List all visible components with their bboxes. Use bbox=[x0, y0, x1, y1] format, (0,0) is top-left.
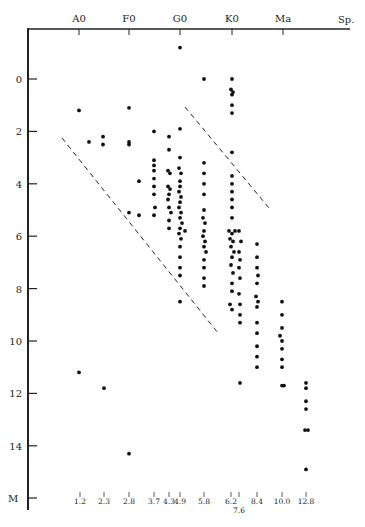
star-point bbox=[152, 164, 156, 168]
star-point bbox=[239, 240, 243, 244]
star-point bbox=[255, 281, 259, 285]
star-point bbox=[238, 276, 242, 280]
star-point bbox=[137, 213, 141, 217]
bottom-tick-label: 2.3 bbox=[98, 497, 110, 506]
star-point bbox=[179, 237, 183, 241]
bottom-axis-ticks: 1.22.32.83.74.34.95.86.27.68.410.012.8 bbox=[74, 492, 315, 515]
star-point bbox=[280, 347, 284, 351]
star-point bbox=[255, 321, 259, 325]
star-point bbox=[255, 344, 259, 348]
star-point bbox=[231, 240, 235, 244]
bottom-tick-label: 5.8 bbox=[198, 497, 210, 506]
star-point bbox=[178, 156, 182, 160]
star-point bbox=[237, 292, 241, 296]
star-point bbox=[238, 258, 242, 262]
upper-envelope-line bbox=[185, 107, 269, 208]
star-point bbox=[230, 182, 234, 186]
star-point bbox=[230, 93, 234, 97]
star-point bbox=[178, 226, 182, 230]
left-tick-label: 14 bbox=[9, 441, 22, 452]
star-point bbox=[101, 135, 105, 139]
star-point bbox=[167, 205, 171, 209]
top-tick-label: K0 bbox=[225, 13, 239, 24]
star-point bbox=[178, 300, 182, 304]
star-point bbox=[168, 187, 172, 191]
hr-diagram-chart: A0F0G0K0Ma 02468101214 1.22.32.83.74.34.… bbox=[0, 0, 365, 527]
left-tick-label: 0 bbox=[16, 74, 22, 85]
star-point bbox=[127, 106, 131, 110]
star-point bbox=[179, 171, 183, 175]
star-point bbox=[202, 161, 206, 165]
star-point bbox=[304, 386, 308, 390]
star-point bbox=[153, 205, 157, 209]
bottom-tick-label: 12.8 bbox=[298, 497, 315, 506]
star-point bbox=[178, 127, 182, 131]
star-point bbox=[152, 130, 156, 134]
bottom-tick-label: 1.2 bbox=[74, 497, 86, 506]
star-point bbox=[228, 302, 232, 306]
star-point bbox=[152, 177, 156, 181]
star-point bbox=[202, 208, 206, 212]
star-point bbox=[167, 226, 171, 230]
star-point bbox=[168, 171, 172, 175]
star-point bbox=[230, 308, 234, 312]
star-point bbox=[238, 313, 242, 317]
star-point bbox=[167, 219, 171, 223]
star-point bbox=[304, 399, 308, 403]
star-point bbox=[178, 245, 182, 249]
left-axis-ticks: 02468101214 bbox=[9, 74, 37, 498]
bottom-tick-label: 2.8 bbox=[123, 497, 135, 506]
star-point bbox=[230, 150, 234, 154]
star-point bbox=[183, 229, 187, 233]
star-point bbox=[166, 198, 170, 202]
star-point bbox=[230, 255, 234, 259]
bottom-tick-label: 8.4 bbox=[251, 497, 263, 506]
star-point bbox=[167, 192, 171, 196]
star-point bbox=[203, 240, 207, 244]
star-point bbox=[230, 111, 234, 115]
star-point bbox=[178, 200, 182, 204]
bottom-tick-label: 3.7 bbox=[148, 497, 160, 506]
star-point bbox=[137, 179, 141, 183]
star-point bbox=[255, 331, 259, 335]
star-point bbox=[280, 300, 284, 304]
star-point bbox=[280, 339, 284, 343]
star-point bbox=[231, 271, 235, 275]
star-point bbox=[230, 216, 234, 220]
star-point bbox=[304, 467, 308, 471]
star-point bbox=[101, 143, 105, 147]
star-point bbox=[203, 221, 207, 225]
left-tick-label: 4 bbox=[16, 179, 22, 190]
star-point bbox=[227, 229, 231, 233]
star-point bbox=[280, 365, 284, 369]
star-point bbox=[238, 321, 242, 325]
star-point bbox=[304, 381, 308, 385]
star-point bbox=[178, 274, 182, 278]
left-tick-label: 6 bbox=[16, 231, 22, 242]
star-point bbox=[177, 190, 181, 194]
top-tick-label: Ma bbox=[275, 13, 291, 24]
star-point bbox=[127, 452, 131, 456]
star-point bbox=[237, 229, 241, 233]
star-point bbox=[254, 295, 258, 299]
top-axis-ticks: A0F0G0K0Ma bbox=[71, 13, 291, 35]
star-point bbox=[152, 192, 156, 196]
bottom-tick-label: 4.9 bbox=[174, 497, 186, 506]
star-point bbox=[230, 190, 234, 194]
star-point bbox=[255, 242, 259, 246]
star-point bbox=[230, 77, 234, 81]
star-point bbox=[255, 305, 259, 309]
star-point bbox=[152, 213, 156, 217]
star-point bbox=[255, 255, 259, 259]
star-point bbox=[255, 365, 259, 369]
star-point bbox=[87, 140, 91, 144]
star-point bbox=[229, 245, 233, 249]
star-point bbox=[202, 284, 206, 288]
top-tick-label: F0 bbox=[122, 13, 135, 24]
star-point bbox=[256, 300, 260, 304]
star-point bbox=[127, 211, 131, 215]
y-axis-title: M bbox=[8, 493, 18, 504]
left-tick-label: 12 bbox=[9, 388, 22, 399]
star-point bbox=[177, 205, 181, 209]
bottom-tick-label: 6.2 bbox=[225, 497, 237, 506]
